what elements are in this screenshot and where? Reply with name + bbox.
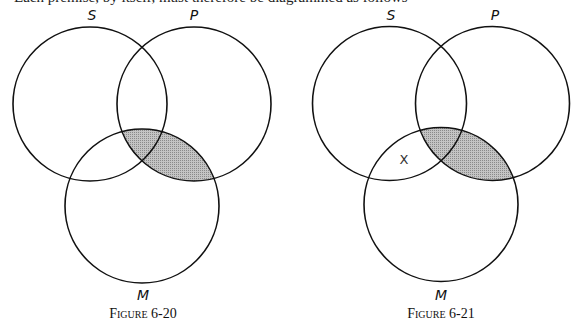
venn-diagrams: S P M Figure 6-20 S P M X Figure 6-21 [0, 0, 582, 326]
label-p: P [491, 7, 500, 23]
x-mark: X [400, 152, 409, 167]
figure-caption: Figure 6-21 [407, 306, 475, 321]
label-s: S [387, 7, 396, 23]
label-s: S [88, 7, 97, 23]
figure-6-20: S P M Figure 6-20 [13, 7, 271, 321]
label-m: M [137, 287, 149, 303]
figure-caption: Figure 6-20 [109, 306, 177, 321]
circle-s [13, 27, 167, 181]
label-m: M [435, 287, 447, 303]
circle-s [313, 27, 467, 181]
figure-6-21: S P M X Figure 6-21 [313, 7, 570, 321]
label-p: P [190, 7, 199, 23]
